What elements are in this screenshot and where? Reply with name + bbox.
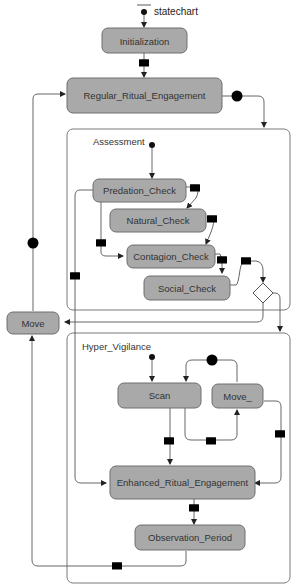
- assessment-initial-pseudostate: [149, 142, 155, 148]
- state-predation-check[interactable]: Predation_Check: [93, 179, 186, 202]
- svg-text:Move_: Move_: [223, 391, 252, 402]
- envelope-icon: [96, 240, 106, 247]
- svg-text:Social_Check: Social_Check: [158, 283, 216, 294]
- envelope-icon: [190, 185, 200, 192]
- initial-pseudostate: [141, 9, 147, 15]
- envelope-icon: [70, 273, 80, 280]
- state-initialization[interactable]: Initialization: [102, 28, 187, 53]
- svg-text:Enhanced_Ritual_Engagement: Enhanced_Ritual_Engagement: [117, 477, 249, 488]
- envelope-icon: [241, 258, 251, 265]
- state-move-underscore[interactable]: Move_: [212, 384, 263, 408]
- envelope-icon: [207, 216, 217, 223]
- state-social-check[interactable]: Social_Check: [144, 276, 230, 300]
- envelope-icon: [112, 563, 122, 570]
- statechart-entry: statechart: [137, 5, 198, 17]
- composite-assessment-label: Assessment: [93, 136, 145, 147]
- svg-text:Contagion_Check: Contagion_Check: [133, 251, 209, 262]
- state-regular-ritual-engagement[interactable]: Regular_Ritual_Engagement: [67, 78, 222, 113]
- state-scan[interactable]: Scan: [118, 383, 201, 408]
- clock-icon: [207, 355, 218, 366]
- statechart-title: statechart: [154, 6, 198, 17]
- svg-text:Scan: Scan: [149, 390, 171, 401]
- clock-icon: [232, 91, 243, 102]
- state-move[interactable]: Move: [7, 312, 59, 334]
- svg-text:Regular_Ritual_Engagement: Regular_Ritual_Engagement: [84, 90, 206, 101]
- state-natural-check[interactable]: Natural_Check: [110, 209, 206, 232]
- state-enhanced-ritual-engagement[interactable]: Enhanced_Ritual_Engagement: [110, 466, 255, 499]
- envelope-icon: [139, 60, 149, 67]
- envelope-icon: [217, 257, 227, 264]
- envelope-icon: [189, 505, 199, 512]
- composite-hyper-vigilance-label: Hyper_Vigilance: [82, 341, 151, 352]
- state-contagion-check[interactable]: Contagion_Check: [127, 245, 215, 268]
- envelope-icon: [164, 438, 174, 445]
- clock-icon: [28, 238, 39, 249]
- state-observation-period[interactable]: Observation_Period: [135, 525, 245, 550]
- hyper-vigilance-initial-pseudostate: [149, 354, 155, 360]
- envelope-icon: [275, 431, 285, 438]
- svg-text:Natural_Check: Natural_Check: [127, 215, 190, 226]
- envelope-icon: [206, 438, 216, 445]
- statechart-diagram: statechart Assessment Hyper_Vigilance: [0, 0, 296, 587]
- svg-text:Predation_Check: Predation_Check: [103, 185, 176, 196]
- svg-text:Observation_Period: Observation_Period: [148, 532, 232, 543]
- svg-text:Move: Move: [21, 318, 44, 329]
- svg-text:Initialization: Initialization: [120, 36, 170, 47]
